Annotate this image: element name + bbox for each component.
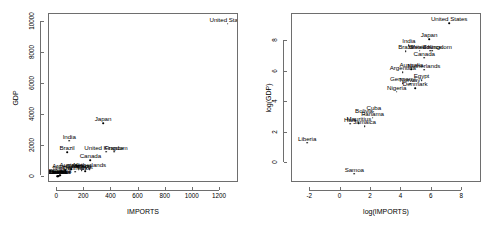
x-tick-label: 0: [54, 193, 58, 199]
point-label: Argentina: [390, 65, 416, 71]
y-tick-label: 4000: [29, 107, 35, 121]
y-tick: [284, 132, 287, 133]
x-tick: [400, 187, 401, 190]
y-tick-label: 8: [272, 39, 278, 43]
data-point: [306, 142, 308, 144]
point-label: Mexico: [72, 163, 91, 169]
y-tick: [41, 52, 44, 53]
data-point: [448, 22, 450, 24]
y-tick-label: 10000: [29, 12, 35, 30]
x-tick: [138, 187, 139, 190]
data-point: [428, 38, 430, 40]
plot-area-right: United StatesJapanIndiaUnited KingdomBra…: [291, 13, 481, 182]
data-point: [105, 151, 107, 153]
x-tick-label: 800: [159, 193, 170, 199]
y-axis-line: [40, 21, 41, 176]
x-axis-title: log(IMPORTS): [363, 208, 409, 215]
data-point: [423, 69, 425, 71]
x-axis-title: IMPORTS: [127, 208, 159, 215]
x-tick-label: 200: [78, 193, 89, 199]
panel-loggdp-vs-logimports: United StatesJapanIndiaUnited KingdomBra…: [246, 0, 492, 235]
point-label: Japan: [95, 116, 112, 122]
data-point: [113, 151, 115, 153]
y-tick: [41, 176, 44, 177]
data-point: [396, 91, 398, 93]
data-point: [414, 88, 416, 90]
y-tick: [284, 71, 287, 72]
point-label: Canada: [414, 50, 435, 56]
y-axis-title: log(GDP): [265, 83, 272, 112]
panel-gdp-vs-imports: United StatesJapanIndiaBrazilUnited King…: [0, 0, 246, 235]
x-tick-label: 600: [132, 193, 143, 199]
y-tick-label: 6: [272, 69, 278, 73]
data-point: [102, 123, 104, 125]
x-tick-label: 1000: [185, 193, 199, 199]
y-tick: [41, 114, 44, 115]
x-tick: [165, 187, 166, 190]
point-label: Samoa: [48, 169, 67, 175]
y-tick: [284, 162, 287, 163]
y-tick-label: 4: [272, 100, 278, 104]
data-point: [227, 23, 229, 25]
x-tick: [110, 187, 111, 190]
data-point: [349, 123, 351, 125]
data-point: [75, 171, 77, 173]
y-tick-label: 8000: [29, 45, 35, 59]
x-tick: [461, 187, 462, 190]
point-label: Liberia: [298, 136, 316, 142]
y-tick: [284, 40, 287, 41]
x-tick-label: 6: [429, 193, 433, 199]
point-label: France: [105, 145, 124, 151]
x-tick-label: -2: [306, 193, 312, 199]
data-point: [423, 57, 425, 59]
y-tick-label: 0: [272, 160, 278, 164]
point-label: Japan: [421, 32, 438, 38]
point-label: Canada: [80, 153, 101, 159]
y-tick: [41, 21, 44, 22]
x-tick-label: 0: [338, 193, 342, 199]
x-tick: [56, 187, 57, 190]
point-label: India: [63, 133, 76, 139]
data-point: [402, 72, 404, 74]
x-tick: [83, 187, 84, 190]
point-label: Nigeria: [387, 85, 406, 91]
y-tick-label: 2000: [29, 138, 35, 152]
point-label: Jamaica: [353, 119, 376, 125]
x-tick-label: 2: [368, 193, 372, 199]
y-tick: [284, 101, 287, 102]
x-tick: [370, 187, 371, 190]
data-point: [81, 170, 83, 172]
x-axis-line: [56, 190, 219, 191]
data-point: [57, 176, 59, 178]
x-tick: [192, 187, 193, 190]
point-label: United States: [431, 16, 468, 22]
x-tick: [219, 187, 220, 190]
y-tick: [41, 145, 44, 146]
data-point: [364, 126, 366, 128]
x-tick: [309, 187, 310, 190]
point-label: Brazil: [59, 145, 74, 151]
point-label: Samoa: [345, 166, 364, 172]
point-label: United States: [209, 17, 238, 23]
data-point: [68, 140, 70, 142]
x-tick: [340, 187, 341, 190]
y-tick-label: 6000: [29, 76, 35, 90]
y-tick: [41, 83, 44, 84]
y-axis-title: GDP: [12, 90, 19, 105]
y-tick-label: 2: [272, 130, 278, 134]
plot-area-left: United StatesJapanIndiaBrazilUnited King…: [48, 13, 238, 182]
y-tick-label: 0: [29, 174, 35, 178]
x-axis-line: [309, 190, 461, 191]
data-point: [405, 50, 407, 52]
x-tick-label: 4: [399, 193, 403, 199]
data-point: [66, 151, 68, 153]
x-tick-label: 400: [105, 193, 116, 199]
x-tick: [431, 187, 432, 190]
x-tick-label: 1200: [212, 193, 226, 199]
point-label: Denmark: [403, 81, 428, 87]
data-point: [354, 173, 356, 175]
x-tick-label: 8: [459, 193, 463, 199]
figure-canvas: United StatesJapanIndiaBrazilUnited King…: [0, 0, 492, 235]
